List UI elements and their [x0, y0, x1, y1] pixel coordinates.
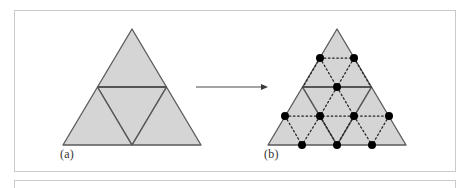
figure-panel-next — [14, 180, 456, 188]
figure-panel-main — [14, 10, 456, 172]
caption-b: (b) — [264, 147, 279, 162]
figure-root: (a) (b) — [0, 0, 472, 188]
caption-a: (a) — [60, 147, 74, 162]
